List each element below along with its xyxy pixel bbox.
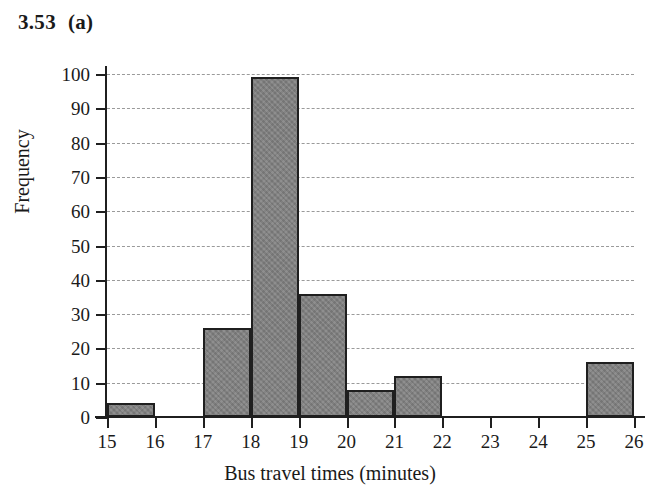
x-axis-tick-label: 24	[518, 432, 558, 451]
x-axis-tick-label: 22	[422, 432, 462, 451]
y-axis-tick	[96, 314, 107, 316]
x-axis-tick-label: 20	[327, 432, 367, 451]
y-axis-tick	[96, 348, 107, 350]
x-axis-tick-label: 21	[374, 432, 414, 451]
x-axis-tick	[538, 417, 540, 428]
x-axis-tick-label: 19	[279, 432, 319, 451]
figure-part: (a)	[68, 10, 93, 34]
x-axis-tick	[251, 417, 253, 428]
y-axis-tick	[96, 383, 107, 385]
y-axis-tick	[96, 74, 107, 76]
histogram-figure: 3.53(a) 0102030405060708090100 151617181…	[0, 0, 660, 503]
histogram-bar	[394, 376, 442, 417]
y-axis-tick-label: 10	[71, 373, 90, 392]
x-axis-tick	[347, 417, 349, 428]
x-axis-tick-label: 18	[231, 432, 271, 451]
gridline	[107, 348, 634, 349]
gridline	[107, 177, 634, 178]
x-axis-tick	[155, 417, 157, 428]
y-axis-tick	[96, 143, 107, 145]
histogram-bar	[107, 403, 155, 417]
x-axis-tick-label: 26	[614, 432, 654, 451]
x-axis-tick	[203, 417, 205, 428]
x-axis-tick	[299, 417, 301, 428]
y-axis-tick-label: 0	[81, 408, 91, 427]
y-axis-tick	[96, 177, 107, 179]
y-axis-title: Frequency	[11, 82, 34, 262]
figure-label: 3.53(a)	[18, 10, 93, 35]
gridline	[107, 383, 634, 384]
figure-number: 3.53	[18, 10, 56, 34]
y-axis-tick-label: 40	[71, 270, 90, 289]
x-axis-tick-label: 25	[566, 432, 606, 451]
x-axis-tick	[634, 417, 636, 428]
gridline	[107, 108, 634, 109]
y-axis-tick-label: 90	[71, 99, 90, 118]
x-axis-tick	[586, 417, 588, 428]
x-axis-tick-label: 15	[87, 432, 127, 451]
y-axis-tick	[96, 280, 107, 282]
y-axis-tick	[96, 108, 107, 110]
x-axis-title: Bus travel times (minutes)	[0, 462, 660, 485]
x-axis-tick	[490, 417, 492, 428]
plot-area	[107, 74, 634, 417]
y-axis-tick-label: 30	[71, 305, 90, 324]
y-axis-tick-label: 100	[62, 65, 91, 84]
gridline	[107, 246, 634, 247]
y-axis-tick-label: 60	[71, 202, 90, 221]
y-axis-tick	[96, 246, 107, 248]
histogram-bar	[203, 328, 251, 417]
x-axis-tick-label: 16	[135, 432, 175, 451]
gridline	[107, 143, 634, 144]
y-axis-tick-label: 50	[71, 236, 90, 255]
x-axis-tick	[107, 417, 109, 428]
gridline	[107, 74, 634, 75]
histogram-bar	[299, 294, 347, 417]
histogram-bar	[251, 77, 299, 417]
gridline	[107, 280, 634, 281]
y-axis-tick	[96, 211, 107, 213]
y-axis-tick-label: 80	[71, 133, 90, 152]
x-axis-tick-label: 23	[470, 432, 510, 451]
x-axis-tick	[394, 417, 396, 428]
gridline	[107, 211, 634, 212]
y-axis-tick	[96, 417, 107, 419]
y-axis-tick-label: 20	[71, 339, 90, 358]
histogram-bar	[586, 362, 634, 417]
histogram-bar	[347, 390, 395, 417]
x-axis-tick	[442, 417, 444, 428]
gridline	[107, 314, 634, 315]
y-axis-tick-label: 70	[71, 167, 90, 186]
y-axis-line	[105, 66, 107, 419]
x-axis-tick-label: 17	[183, 432, 223, 451]
